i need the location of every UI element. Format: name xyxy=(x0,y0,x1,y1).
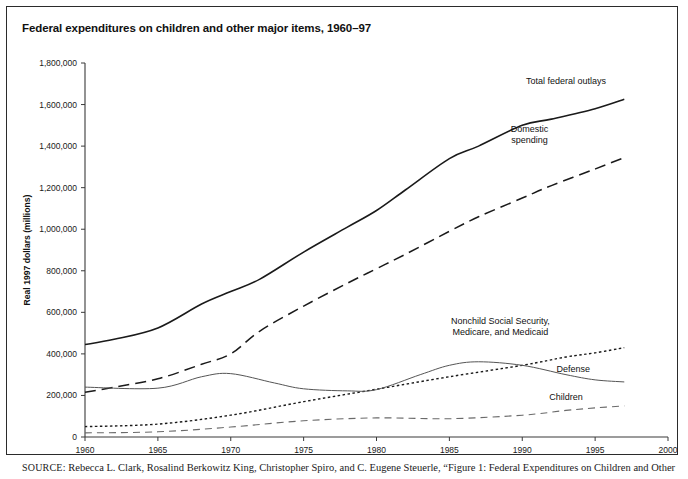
series-line-1 xyxy=(85,158,624,393)
x-tick-label: 1985 xyxy=(440,445,459,455)
y-tick-label: 1,400,000 xyxy=(39,141,77,151)
x-tick-label: 2000 xyxy=(659,445,678,455)
y-tick-label: 1,600,000 xyxy=(39,100,77,110)
y-tick-label: 1,800,000 xyxy=(39,58,77,68)
y-tick-label: 200,000 xyxy=(46,390,77,400)
series-line-4 xyxy=(85,406,624,433)
y-tick-label: 0 xyxy=(72,432,77,442)
x-tick-label: 1970 xyxy=(221,445,240,455)
series-label-line: Nonchild Social Security, xyxy=(451,316,550,326)
series-label-line: Defense xyxy=(556,364,590,374)
source-note: SOURCE: Rebecca L. Clark, Rosalind Berko… xyxy=(22,462,682,474)
figure-root: Federal expenditures on children and oth… xyxy=(0,0,688,479)
y-tick-label: 400,000 xyxy=(46,349,77,359)
x-tick-label: 1990 xyxy=(513,445,532,455)
line-chart: 0200,000400,000600,000800,0001,000,0001,… xyxy=(0,0,688,479)
series-label-1: Domesticspending xyxy=(511,124,549,145)
y-tick-label: 800,000 xyxy=(46,266,77,276)
y-axis-title: Real 1997 dollars (millions) xyxy=(22,194,32,305)
series-line-3 xyxy=(85,362,624,392)
series-label-4: Children xyxy=(549,392,583,402)
y-tick-label: 1,200,000 xyxy=(39,183,77,193)
x-tick-label: 1980 xyxy=(367,445,386,455)
series-label-line: Total federal outlays xyxy=(526,76,607,86)
series-label-3: Defense xyxy=(556,364,590,374)
y-tick-label: 1,000,000 xyxy=(39,224,77,234)
x-tick-label: 1995 xyxy=(586,445,605,455)
series-label-line: Domestic xyxy=(511,124,549,134)
series-label-line: Children xyxy=(549,392,583,402)
series-label-2: Nonchild Social Security,Medicare, and M… xyxy=(451,316,550,337)
series-label-line: Medicare, and Medicaid xyxy=(453,327,549,337)
series-label-0: Total federal outlays xyxy=(526,76,607,86)
x-tick-label: 1975 xyxy=(294,445,313,455)
series-label-line: spending xyxy=(511,135,548,145)
source-label: SOURCE: xyxy=(22,462,66,473)
y-tick-label: 600,000 xyxy=(46,307,77,317)
x-tick-label: 1965 xyxy=(148,445,167,455)
source-text: Rebecca L. Clark, Rosalind Berkowitz Kin… xyxy=(66,462,675,473)
x-tick-label: 1960 xyxy=(76,445,95,455)
